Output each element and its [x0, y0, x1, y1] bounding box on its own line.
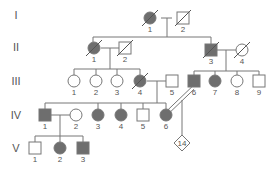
individual-iii-9: 9: [253, 75, 265, 97]
individual-ii-3: 3: [203, 42, 219, 66]
affected-female-icon: [160, 109, 172, 121]
individual-number: 1: [92, 55, 97, 64]
unaffected-male-icon: [166, 75, 178, 87]
individual-iv-4: 4: [115, 109, 127, 131]
individual-iv-5: 5: [137, 109, 149, 131]
individual-ii-4: 4: [234, 42, 250, 66]
affected-male-icon: [39, 109, 51, 121]
individual-number: 3: [115, 88, 120, 97]
individual-number: 9: [257, 88, 262, 97]
generation-label: V: [12, 142, 20, 154]
individual-iv-3: 3: [92, 109, 104, 131]
offspring-count: 14: [178, 139, 187, 148]
individual-number: 3: [96, 122, 101, 131]
unaffected-male-icon: [29, 142, 41, 154]
individual-iii-4: 4: [132, 73, 148, 97]
individual-number: 3: [81, 155, 86, 164]
individual-iv-2: 2: [70, 109, 82, 131]
individual-iv-6: 6: [160, 109, 172, 131]
individual-iii-1: 1: [68, 75, 80, 97]
affected-female-icon: [209, 75, 221, 87]
individual-number: 2: [74, 122, 79, 131]
individual-number: 1: [72, 88, 77, 97]
individual-iii-7: 7: [209, 75, 221, 97]
individual-iii-3: 3: [111, 75, 123, 97]
individual-iii-2: 2: [90, 75, 102, 97]
affected-male-icon: [188, 75, 200, 87]
individual-i-2: 2: [175, 10, 191, 34]
individual-number: 4: [138, 88, 143, 97]
individual-v-1: 1: [29, 142, 41, 164]
individual-ii-1: 1: [86, 40, 102, 64]
individual-number: 6: [164, 122, 169, 131]
generation-labels: IIIIIIIVV: [11, 9, 22, 154]
individual-v-2: 2: [54, 142, 66, 164]
unaffected-female-icon: [68, 75, 80, 87]
generation-label: IV: [11, 109, 22, 121]
individual-number: 1: [43, 122, 48, 131]
generation-label: III: [11, 75, 20, 87]
individual-number: 7: [213, 88, 218, 97]
individual-number: 8: [235, 88, 240, 97]
individual-v-offspring: 14: [174, 135, 190, 151]
individual-i-1: 1: [142, 10, 158, 34]
affected-male-icon: [77, 142, 89, 154]
individual-number: 5: [170, 88, 175, 97]
individual-number: 2: [181, 25, 186, 34]
unaffected-female-icon: [90, 75, 102, 87]
unaffected-female-icon: [70, 109, 82, 121]
affected-female-icon: [54, 142, 66, 154]
affected-female-icon: [115, 109, 127, 121]
individual-iii-5: 5: [166, 75, 178, 97]
individuals: 12123412345678912345612314: [29, 10, 265, 164]
individual-number: 4: [240, 57, 245, 66]
individual-number: 4: [119, 122, 124, 131]
pedigree-chart: IIIIIIIVV 12123412345678912345612314: [0, 0, 279, 171]
individual-iii-8: 8: [231, 75, 243, 97]
affected-female-icon: [92, 109, 104, 121]
individual-number: 1: [148, 25, 153, 34]
individual-ii-2: 2: [117, 40, 133, 64]
unaffected-female-icon: [111, 75, 123, 87]
unaffected-male-icon: [137, 109, 149, 121]
individual-number: 2: [94, 88, 99, 97]
generation-label: II: [13, 41, 19, 53]
unaffected-male-icon: [253, 75, 265, 87]
individual-iv-1: 1: [39, 109, 51, 131]
individual-number: 5: [141, 122, 146, 131]
generation-label: I: [14, 9, 17, 21]
individual-number: 1: [33, 155, 38, 164]
individual-number: 2: [123, 55, 128, 64]
individual-v-3: 3: [77, 142, 89, 164]
unaffected-female-icon: [231, 75, 243, 87]
individual-number: 3: [209, 57, 214, 66]
individual-number: 6: [192, 88, 197, 97]
individual-number: 2: [58, 155, 63, 164]
